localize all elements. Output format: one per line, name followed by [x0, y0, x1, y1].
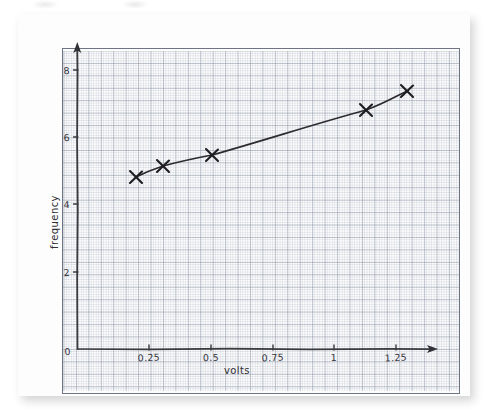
screenshot-root: 8 6 4 2 0 0.25 0.5 0.75 1 1.25 frequency… [0, 0, 486, 418]
graph-paper-sheet [62, 48, 460, 394]
paper-wave-top [63, 49, 459, 51]
scan-artifact-right [122, 0, 148, 9]
scan-artifact-left [32, 0, 58, 9]
paper-wave-bottom [63, 391, 459, 393]
paper-card [18, 14, 470, 396]
